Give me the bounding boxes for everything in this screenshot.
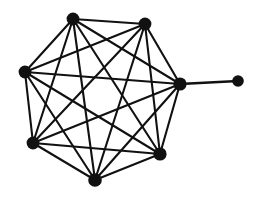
graph-node-bottom — [88, 173, 102, 187]
graph-figure — [0, 0, 260, 199]
graph-node-bottom-right — [153, 147, 166, 160]
graph-canvas — [0, 0, 260, 199]
graph-node-left — [19, 66, 32, 79]
graph-node-top-left — [67, 13, 80, 26]
graph-node-bottom-left — [27, 137, 40, 150]
graph-node-right-hub — [173, 77, 186, 90]
graph-node-top-right — [139, 18, 152, 31]
graph-node-pendant — [232, 75, 244, 87]
